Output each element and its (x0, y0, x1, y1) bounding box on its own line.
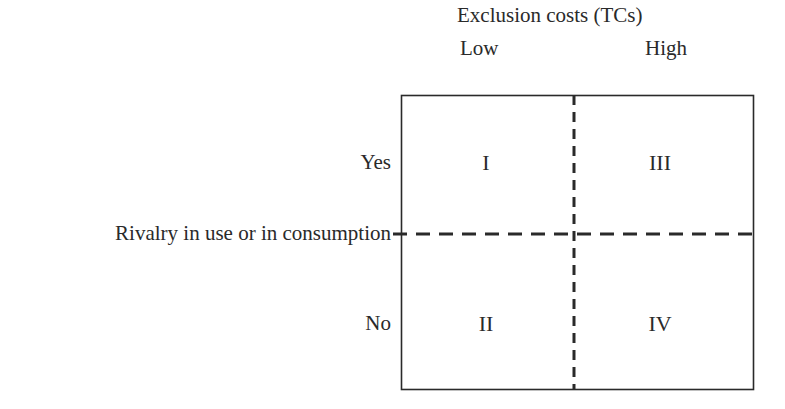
row-label-no: No (365, 313, 391, 334)
column-label-high: High (645, 38, 687, 59)
row-label-yes: Yes (360, 152, 391, 173)
column-label-low: Low (460, 38, 499, 59)
quadrant-i: I (482, 152, 489, 174)
quadrant-ii: II (479, 313, 494, 335)
quadrant-iii: III (649, 152, 671, 174)
column-axis-title: Exclusion costs (TCs) (457, 5, 642, 26)
matrix-border (402, 96, 754, 390)
matrix-grid (0, 0, 785, 409)
quadrant-iv: IV (648, 313, 671, 335)
row-axis-title: Rivalry in use or in consumption (115, 223, 391, 244)
